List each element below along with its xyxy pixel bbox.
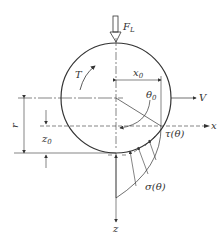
x-axis-arrow-icon (204, 124, 210, 128)
velocity-label: V (199, 92, 208, 103)
shear-stress-label: τ(θ) (165, 128, 184, 139)
radius-label: r (9, 122, 20, 128)
stress-arrow (149, 140, 156, 160)
shear-ticks (108, 136, 155, 155)
load-label: FL (122, 21, 135, 34)
load-arrow-icon (110, 16, 121, 42)
z-axis-label: z (112, 223, 119, 234)
torque-label: T (75, 69, 83, 80)
torque-arrow-icon (80, 66, 95, 90)
stress-arrow (138, 147, 148, 174)
theta0-label: θ0 (146, 89, 157, 102)
x-axis-label: x (211, 120, 217, 131)
theta0-arc (120, 100, 150, 128)
normal-stress-label: σ(θ) (145, 181, 166, 192)
z0-label: z0 (41, 133, 52, 146)
x0-label: x0 (133, 67, 144, 80)
stress-arrow (130, 151, 136, 186)
wheel-soil-diagram: FL T x0 V θ0 x r z0 z τ(θ) σ(θ) (0, 0, 223, 240)
